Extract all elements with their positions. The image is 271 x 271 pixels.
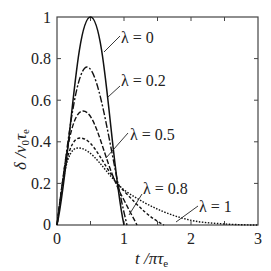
x-axis-title: t /πτe [135, 249, 168, 269]
x-tick-3: 3 [254, 230, 262, 247]
chart-svg: 0 0.2 0.4 0.6 0.8 1 0 1 2 3 t /πτe δ /v0… [0, 0, 271, 271]
y-axis-title: δ /v0τe [11, 129, 31, 170]
y-tick-0: 0 [43, 216, 51, 233]
curve-lambda-0.5 [57, 111, 137, 225]
label-lambda-0.8: λ = 0.8 [143, 180, 188, 197]
y-tick-1: 1 [43, 9, 51, 26]
label-lambda-0: λ = 0 [121, 29, 154, 46]
curve-lambda-0 [57, 17, 124, 225]
x-tick-0: 0 [53, 230, 61, 247]
label-lambda-0.5: λ = 0.5 [130, 126, 175, 143]
y-tick-0.6: 0.6 [31, 92, 51, 109]
x-tick-2: 2 [187, 230, 195, 247]
chart-root: 0 0.2 0.4 0.6 0.8 1 0 1 2 3 t /πτe δ /v0… [0, 0, 271, 271]
y-tick-0.2: 0.2 [31, 175, 51, 192]
x-tick-1: 1 [120, 230, 128, 247]
label-lambda-0.2: λ = 0.2 [121, 72, 166, 89]
y-tick-0.4: 0.4 [31, 133, 51, 150]
label-lambda-1: λ = 1 [199, 198, 232, 215]
y-tick-0.8: 0.8 [31, 50, 51, 67]
